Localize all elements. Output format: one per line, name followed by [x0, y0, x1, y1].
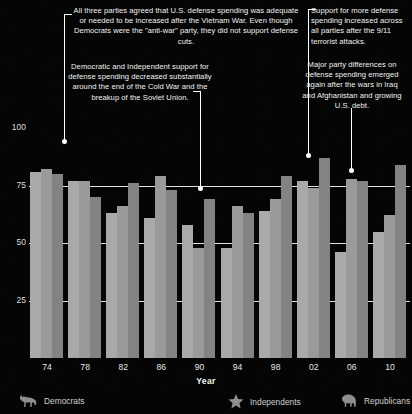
bar-republicans-86[interactable] — [166, 190, 177, 358]
bar-republicans-02[interactable] — [319, 158, 330, 358]
bar-democrats-10[interactable] — [373, 232, 384, 359]
bar-independents-06[interactable] — [346, 179, 357, 358]
bar-independents-78[interactable] — [79, 181, 90, 358]
x-axis: 74788286909498020610 — [29, 362, 410, 376]
bar-group-02 — [297, 128, 330, 358]
legend-label-democrats: Democrats — [44, 396, 85, 406]
bar-democrats-90[interactable] — [182, 225, 193, 358]
x-axis-label: Year — [0, 376, 412, 386]
bar-republicans-74[interactable] — [52, 174, 63, 358]
bar-republicans-94[interactable] — [243, 213, 254, 358]
bar-group-86 — [144, 128, 177, 358]
bar-group-90 — [182, 128, 215, 358]
leader-line-vietnam — [64, 14, 65, 140]
bar-independents-02[interactable] — [308, 188, 319, 358]
bar-democrats-02[interactable] — [297, 181, 308, 358]
legend-item-republicans[interactable]: Republicans — [340, 394, 410, 408]
bar-republicans-82[interactable] — [128, 183, 139, 358]
bar-independents-94[interactable] — [232, 206, 243, 358]
bar-republicans-90[interactable] — [204, 199, 215, 358]
bar-independents-90[interactable] — [193, 248, 204, 358]
bar-independents-98[interactable] — [270, 199, 281, 358]
bar-democrats-98[interactable] — [259, 211, 270, 358]
bar-democrats-86[interactable] — [144, 218, 155, 358]
star-icon — [228, 394, 244, 409]
bar-republicans-10[interactable] — [395, 165, 406, 358]
legend-item-independents[interactable]: Independents — [228, 394, 301, 409]
x-tick-label-86: 86 — [157, 362, 167, 372]
bar-group-94 — [221, 128, 254, 358]
annotation-september-11: Support for more defense spending increa… — [311, 6, 409, 47]
bar-democrats-94[interactable] — [221, 248, 232, 358]
annotation-vietnam-war: All three parties agreed that U.S. defen… — [70, 6, 302, 47]
bar-group-82 — [106, 128, 139, 358]
x-tick-label-06: 06 — [347, 362, 357, 372]
bar-independents-74[interactable] — [41, 169, 52, 358]
bar-republicans-98[interactable] — [281, 176, 292, 358]
bar-group-98 — [259, 128, 292, 358]
x-tick-label-74: 74 — [42, 362, 52, 372]
annotation-cold-war: Democratic and Independent support for d… — [64, 62, 216, 103]
x-tick-label-94: 94 — [233, 362, 243, 372]
y-tick-label-50: 50 — [4, 237, 26, 247]
x-tick-label-02: 02 — [309, 362, 319, 372]
bar-democrats-78[interactable] — [68, 181, 79, 358]
x-tick-label-82: 82 — [118, 362, 128, 372]
bar-group-10 — [373, 128, 406, 358]
leader-elbow-911 — [308, 9, 316, 10]
x-tick-label-78: 78 — [80, 362, 90, 372]
x-tick-label-98: 98 — [271, 362, 281, 372]
legend-label-republicans: Republicans — [364, 396, 410, 406]
x-tick-label-90: 90 — [195, 362, 205, 372]
bar-group-78 — [68, 128, 101, 358]
bar-group-06 — [335, 128, 368, 358]
bar-group-74 — [30, 128, 63, 358]
bar-independents-10[interactable] — [384, 215, 395, 358]
donkey-icon — [18, 394, 38, 408]
legend-label-independents: Independents — [250, 397, 301, 407]
y-tick-label-25: 25 — [4, 295, 26, 305]
bar-democrats-74[interactable] — [30, 172, 41, 358]
bar-democrats-06[interactable] — [335, 252, 346, 358]
bar-groups — [29, 128, 410, 358]
legend-item-democrats[interactable]: Democrats — [18, 394, 85, 408]
leader-elbow-coldwar — [193, 91, 201, 92]
y-tick-label-75: 75 — [4, 180, 26, 190]
bar-independents-86[interactable] — [155, 176, 166, 358]
bar-republicans-06[interactable] — [357, 181, 368, 358]
y-tick-label-100: 100 — [4, 122, 26, 132]
bar-republicans-78[interactable] — [90, 197, 101, 358]
bar-independents-82[interactable] — [117, 206, 128, 358]
leader-elbow-vietnam — [64, 14, 72, 15]
elephant-icon — [340, 394, 358, 408]
x-tick-label-10: 10 — [385, 362, 395, 372]
bar-democrats-82[interactable] — [106, 213, 117, 358]
annotation-iraq-afghanistan: Major party differences on defense spend… — [300, 60, 404, 111]
chart-legend: DemocratsIndependentsRepublicans — [0, 392, 412, 414]
